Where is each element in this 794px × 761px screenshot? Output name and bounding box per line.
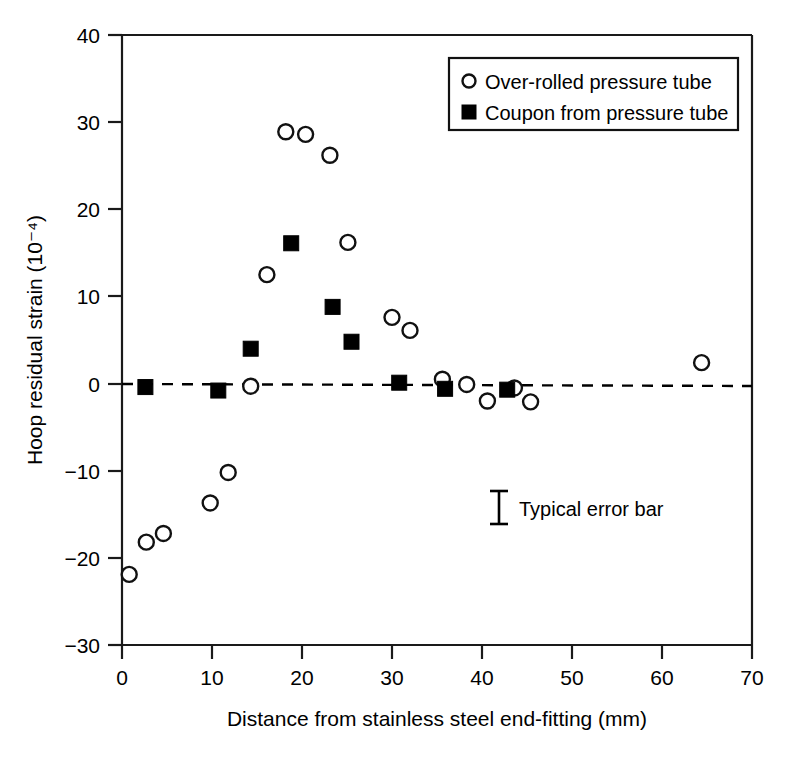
y-tick-label: 30	[77, 111, 100, 134]
typical-error-bar-annotation: Typical error bar	[490, 491, 664, 524]
data-point-open-circle	[156, 526, 171, 541]
data-point-open-circle	[259, 267, 274, 282]
x-axis-ticks	[122, 645, 752, 659]
y-tick-label: −20	[64, 547, 100, 570]
x-tick-label: 30	[380, 666, 403, 689]
x-tick-label: 40	[470, 666, 493, 689]
legend-label-over-rolled: Over-rolled pressure tube	[485, 71, 712, 93]
data-point-open-circle	[403, 323, 418, 338]
data-point-open-circle	[203, 495, 218, 510]
y-axis-tick-labels: 40 30 20 10 0 −10 −20 −30	[64, 24, 100, 657]
data-point-open-circle	[480, 394, 495, 409]
data-point-open-circle	[278, 124, 293, 139]
x-tick-label: 20	[290, 666, 313, 689]
data-point-open-circle	[122, 567, 137, 582]
error-bar-label: Typical error bar	[519, 498, 664, 520]
y-tick-label: 40	[77, 24, 100, 47]
data-point-open-circle	[243, 379, 258, 394]
legend: Over-rolled pressure tube Coupon from pr…	[449, 58, 738, 130]
data-point-open-circle	[523, 394, 538, 409]
data-point-filled-square	[325, 299, 340, 314]
x-tick-label: 10	[200, 666, 223, 689]
data-point-filled-square	[500, 382, 515, 397]
y-tick-label: 10	[77, 285, 100, 308]
x-tick-label: 0	[116, 666, 128, 689]
data-point-filled-square	[211, 383, 226, 398]
y-axis-ticks	[108, 35, 122, 645]
data-point-filled-square	[138, 380, 153, 395]
legend-marker-open-circle	[463, 75, 476, 88]
data-point-open-circle	[459, 377, 474, 392]
x-tick-label: 70	[740, 666, 763, 689]
legend-marker-filled-square	[462, 105, 476, 119]
y-tick-label: 0	[88, 373, 100, 396]
data-point-open-circle	[385, 310, 400, 325]
x-axis-tick-labels: 0 10 20 30 40 50 60 70	[116, 666, 764, 689]
data-point-filled-square	[438, 381, 453, 396]
y-tick-label: −10	[64, 460, 100, 483]
x-tick-label: 60	[650, 666, 673, 689]
data-point-open-circle	[298, 127, 313, 142]
x-tick-label: 50	[560, 666, 583, 689]
legend-label-coupon: Coupon from pressure tube	[485, 102, 728, 124]
data-point-filled-square	[392, 375, 407, 390]
data-point-filled-square	[344, 334, 359, 349]
data-point-open-circle	[340, 235, 355, 250]
data-point-open-circle	[694, 355, 709, 370]
data-point-filled-square	[284, 236, 299, 251]
y-axis-title: Hoop residual strain (10⁻⁴)	[23, 215, 46, 465]
data-point-open-circle	[139, 535, 154, 550]
figure-container: 40 30 20 10 0 −10 −20 −30 0 10 20 30 40	[0, 0, 794, 761]
y-tick-label: −30	[64, 634, 100, 657]
data-point-open-circle	[322, 148, 337, 163]
series-coupon	[138, 236, 515, 398]
data-point-open-circle	[221, 465, 236, 480]
data-point-filled-square	[243, 341, 258, 356]
y-tick-label: 20	[77, 198, 100, 221]
scatter-plot: 40 30 20 10 0 −10 −20 −30 0 10 20 30 40	[0, 0, 794, 761]
x-axis-title: Distance from stainless steel end-fittin…	[227, 707, 647, 730]
